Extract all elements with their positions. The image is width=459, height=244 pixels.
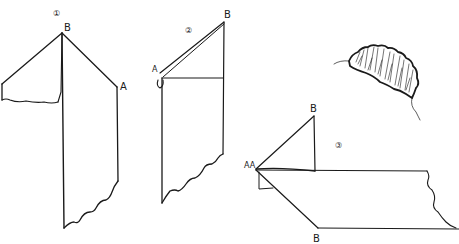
step-3-label-b-bottom: B <box>313 233 320 244</box>
step-2-number: ② <box>185 26 192 35</box>
folding-diagram: ① B A ② B A ③ B AA B <box>0 0 459 244</box>
step-1-label-a: A <box>120 81 127 92</box>
step-1-figure <box>2 33 118 228</box>
step-3-label-aa: AA <box>244 161 256 170</box>
step-2-label-a: A <box>152 65 158 74</box>
step-3-figure <box>256 116 459 229</box>
step-2-label-b: B <box>224 9 231 20</box>
caterpillar-illustration <box>334 45 420 120</box>
step-1-number: ① <box>53 9 60 18</box>
step-3-number: ③ <box>335 141 342 150</box>
step-2-figure <box>157 22 224 203</box>
step-1-label-b: B <box>64 22 71 33</box>
step-3-label-b-top: B <box>310 103 317 114</box>
